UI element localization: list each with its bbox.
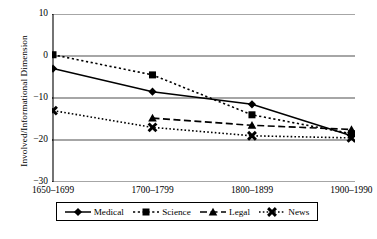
- legend-item-medical[interactable]: Medical: [65, 205, 124, 219]
- data-point-triangle: [347, 125, 355, 133]
- data-series-group: [52, 51, 355, 142]
- x-axis-tick-labels: 1650–16991700–17991800–18991900–1990: [0, 185, 372, 199]
- legend-item-legal[interactable]: Legal: [200, 205, 250, 219]
- series-news: [52, 107, 355, 142]
- legend-label: Science: [160, 207, 191, 217]
- y-axis-tick-label: −20: [18, 135, 48, 144]
- data-point-diamond: [52, 65, 57, 73]
- x-axis-tick-label: 1700–1799: [112, 185, 192, 195]
- series-medical: [52, 65, 355, 140]
- legend-item-science[interactable]: Science: [133, 205, 191, 219]
- y-axis-tick-label: −10: [18, 93, 48, 102]
- y-axis-tick-label: 0: [18, 51, 48, 60]
- legend-label: News: [286, 207, 309, 217]
- series-line: [53, 111, 351, 138]
- legend-label: Legal: [227, 207, 250, 217]
- legend-label: Medical: [92, 207, 124, 217]
- y-axis-tick-label: 10: [18, 9, 48, 18]
- legend-item-news[interactable]: News: [259, 205, 309, 219]
- chart-svg: [52, 14, 355, 182]
- legend-swatch-x-icon: [259, 205, 285, 219]
- data-point-square: [248, 111, 255, 118]
- series-science: [52, 51, 355, 137]
- x-axis-tick-label: 1650–1699: [13, 185, 93, 195]
- legend-swatch-diamond-icon: [65, 205, 91, 219]
- data-point-diamond: [148, 88, 156, 96]
- data-point-square: [143, 208, 150, 215]
- y-axis-tick-labels: 100−10−20−30: [14, 0, 48, 200]
- data-point-square: [52, 51, 57, 58]
- legend-swatch-triangle-icon: [200, 205, 226, 219]
- x-axis-tick-label: 1900–1990: [311, 185, 377, 195]
- data-point-square: [149, 71, 156, 78]
- x-axis-tick-label: 1800–1899: [212, 185, 292, 195]
- chart-legend: MedicalScienceLegalNews: [56, 202, 318, 221]
- data-point-diamond: [74, 207, 82, 215]
- plot-area: [52, 14, 355, 182]
- legend-swatch-square-icon: [133, 205, 159, 219]
- data-point-diamond: [248, 100, 256, 108]
